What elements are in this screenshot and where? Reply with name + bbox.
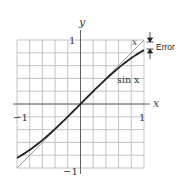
sine-approximation-chart: y x 1 −1 −1 1 x sin x Error [0,0,180,186]
line-x-label: x [132,37,137,47]
y-tick-bottom: −1 [63,166,78,177]
x-tick-left: −1 [13,112,28,123]
x-tick-right: 1 [139,112,145,123]
error-arrows [147,32,154,59]
error-label: Error [156,42,175,52]
x-axis-label: x [153,97,160,110]
line-sin-label: sin x [117,74,140,85]
y-axis-label: y [78,16,86,29]
y-tick-top: 1 [69,35,75,46]
